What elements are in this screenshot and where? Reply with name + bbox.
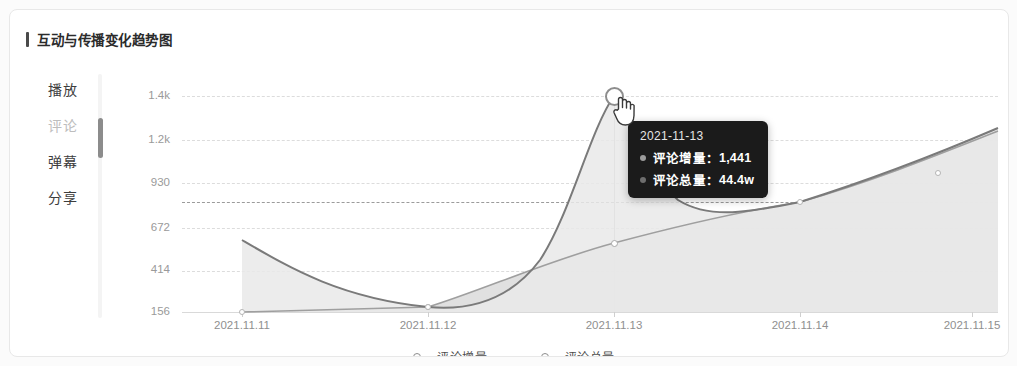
data-point-total-highlight[interactable] — [611, 240, 618, 247]
legend-label-increment: 评论增量 — [437, 348, 487, 357]
tooltip-date: 2021-11-13 — [640, 129, 754, 143]
chart-plot-area[interactable]: 1.4k 1.2k 930 672 414 156 — [10, 10, 1009, 357]
x-axis-label-2: 2021.11.13 — [566, 319, 662, 331]
legend-marker-total-icon — [533, 352, 559, 358]
legend-item-total[interactable]: 评论总量 — [533, 348, 615, 357]
tooltip-separator-increment: ： — [706, 148, 719, 167]
series-svg — [10, 10, 1009, 357]
chart-tooltip: 2021-11-13 评论增量 ： 1,441 评论总量 ： 44.4w — [628, 121, 768, 198]
chart-legend[interactable]: 评论增量 评论总量 — [10, 348, 1009, 357]
tooltip-label-total: 评论总量 — [653, 170, 706, 189]
x-axis-label-0: 2021.11.11 — [194, 319, 290, 331]
tooltip-dot-total — [640, 177, 646, 183]
tooltip-value-total: 44.4w — [719, 173, 754, 187]
x-axis-label-1: 2021.11.12 — [380, 319, 476, 331]
tooltip-dot-increment — [640, 155, 646, 161]
legend-label-total: 评论总量 — [565, 348, 615, 357]
data-point-total-0[interactable] — [239, 309, 245, 315]
tooltip-row-increment: 评论增量 ： 1,441 — [640, 148, 754, 167]
series-increment-area — [242, 96, 998, 312]
legend-item-increment[interactable]: 评论增量 — [405, 348, 487, 357]
data-point-increment-1[interactable] — [425, 304, 431, 310]
x-axis-label-4: 2021.11.15 — [924, 319, 1009, 331]
data-point-increment-highlight[interactable] — [605, 87, 624, 106]
legend-marker-increment-icon — [405, 352, 431, 358]
data-point-total-3[interactable] — [797, 199, 803, 205]
tooltip-row-total: 评论总量 ： 44.4w — [640, 170, 754, 189]
data-point-total-4[interactable] — [935, 170, 941, 176]
x-axis-label-3: 2021.11.14 — [752, 319, 848, 331]
tooltip-label-increment: 评论增量 — [653, 148, 706, 167]
chart-card: 互动与传播变化趋势图 播放 评论 弹幕 分享 1.4k 1.2k 930 672… — [9, 9, 1009, 357]
tooltip-separator-total: ： — [706, 170, 719, 189]
page-background: 互动与传播变化趋势图 播放 评论 弹幕 分享 1.4k 1.2k 930 672… — [0, 0, 1017, 366]
tooltip-value-increment: 1,441 — [719, 151, 751, 165]
